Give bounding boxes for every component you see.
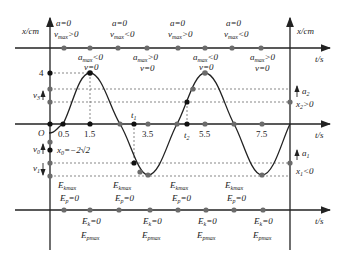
svg-text:Ep=0: Ep=0 [59,193,80,204]
x0-label: x0=−2√2 [56,145,91,156]
svg-text:Ep=0: Ep=0 [114,193,135,204]
svg-text:a=0: a=0 [226,18,242,28]
origin-label: O [38,128,45,138]
x-tick-1.5: 1.5 [84,129,96,139]
svg-text:v=0: v=0 [199,62,214,72]
svg-text:Ek=0: Ek=0 [197,216,217,227]
bottom-below-labels: Ek=0 Epmax Ek=0 Epmax Ek=0 Epmax Ek=0 Ep… [80,216,273,241]
bottom-above-labels: Ekmax Ep=0 Ekmax Ep=0 Ekmax Ep=0 Ekmax E… [57,180,247,204]
svg-text:Ekmax: Ekmax [112,180,131,191]
svg-text:v=0: v=0 [140,63,155,73]
svg-text:Ek=0: Ek=0 [142,216,162,227]
svg-text:vmax>0: vmax>0 [168,29,193,40]
svg-text:amax>0: amax>0 [250,52,276,63]
top-above-labels: a=0 vmax>0 a=0 vmax<0 a=0 vmax>0 a=0 vma… [54,18,249,40]
t1-label: t1 [131,110,137,121]
v3-label: v3 [33,90,40,101]
svg-text:Ekmax: Ekmax [224,180,243,191]
svg-text:Epmax: Epmax [141,230,161,241]
a2-label: a2 [302,86,310,97]
svg-text:a=0: a=0 [112,18,128,28]
svg-text:a=0: a=0 [56,18,72,28]
svg-text:Ek=0: Ek=0 [253,216,273,227]
svg-text:Epmax: Epmax [196,230,216,241]
svg-text:v=0: v=0 [84,62,99,72]
x-tick-0.5: 0.5 [58,129,70,139]
svg-text:Ep=0: Ep=0 [171,193,192,204]
t-axis-label-bottom: t/s [315,216,324,226]
svg-text:Epmax: Epmax [252,230,272,241]
x-tick-5.5: 5.5 [199,129,211,139]
y-tick-4: 4 [39,68,44,78]
shm-diagram: x/cm x/cm t/s t/s t/s O 4 0.5 1.5 3.5 5.… [0,0,340,256]
y-axis-label-right: x/cm [296,26,314,36]
svg-text:Ekmax: Ekmax [57,180,76,191]
v0-label: v0 [33,144,40,155]
t-axis-label-main: t/s [315,130,324,140]
x-tick-3.5: 3.5 [142,129,154,139]
svg-text:amax>0: amax>0 [133,52,159,63]
x2-label: x2>0 [295,99,314,110]
svg-text:vmax>0: vmax>0 [54,29,79,40]
y-axis-label-left: x/cm [21,26,39,36]
top-below-labels: amax<0 v=0 amax>0 v=0 amax<0 v=0 amax>0 … [78,52,276,73]
svg-text:vmax<0: vmax<0 [224,29,249,40]
svg-text:Epmax: Epmax [80,230,100,241]
svg-text:Ekmax: Ekmax [169,180,188,191]
svg-text:a=0: a=0 [170,18,186,28]
t-axis-label-top: t/s [315,54,324,64]
svg-text:Ek=0: Ek=0 [81,216,101,227]
v1-label: v1 [33,163,40,174]
a1-label: a1 [302,148,310,159]
svg-text:v=0: v=0 [255,63,270,73]
x-tick-7.5: 7.5 [256,129,268,139]
svg-text:vmax<0: vmax<0 [110,29,135,40]
svg-text:Ep=0: Ep=0 [226,193,247,204]
x1-label: x1<0 [295,166,314,177]
t2-label: t2 [184,130,190,141]
